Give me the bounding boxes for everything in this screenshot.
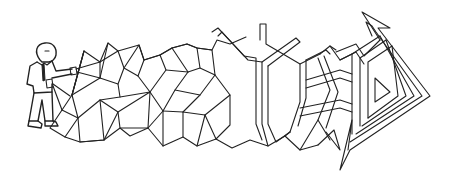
businessman-figure (27, 43, 77, 128)
triangle-mesh (50, 37, 318, 150)
pull-strings (53, 62, 100, 110)
illustration-canvas (0, 0, 452, 184)
line-art-illustration (0, 0, 452, 184)
maze-arrow (212, 12, 430, 170)
